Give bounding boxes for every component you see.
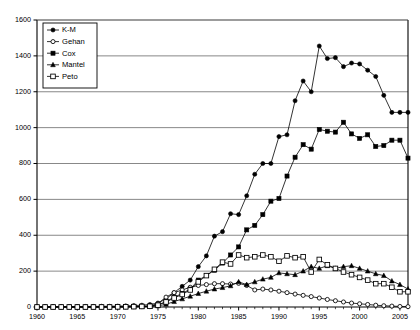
chart-container: 02004006008001000120014001600 1960196519…	[0, 0, 420, 330]
data-point	[67, 305, 72, 310]
legend-marker-icon	[51, 28, 55, 32]
data-point	[382, 144, 386, 148]
data-point	[131, 304, 136, 309]
data-point	[301, 293, 305, 297]
data-point	[341, 65, 345, 69]
data-point	[261, 253, 266, 258]
data-point	[164, 295, 168, 299]
data-point	[382, 304, 386, 308]
data-point	[229, 212, 233, 216]
data-point	[245, 194, 249, 198]
data-point	[180, 292, 185, 297]
x-tick-label: 1985	[231, 312, 247, 321]
y-tick-label: 600	[19, 194, 31, 203]
data-point	[374, 74, 378, 78]
legend-label: Cox	[62, 49, 76, 58]
data-point	[382, 93, 386, 97]
x-tick-label: 2005	[392, 312, 408, 321]
x-tick-label: 1980	[190, 312, 206, 321]
data-point	[91, 305, 96, 310]
data-point	[277, 259, 282, 264]
data-point	[398, 138, 402, 142]
data-point	[229, 253, 233, 257]
data-point	[245, 228, 249, 232]
data-point	[333, 299, 337, 303]
data-point	[43, 305, 48, 310]
data-point	[261, 287, 265, 291]
data-point	[349, 272, 354, 277]
data-point	[228, 262, 233, 267]
data-point	[261, 213, 265, 217]
y-tick-label: 400	[19, 230, 31, 239]
x-tick-label: 1965	[69, 312, 85, 321]
data-point	[374, 303, 378, 307]
data-point	[164, 300, 169, 305]
data-point	[285, 133, 289, 137]
data-point	[277, 135, 281, 139]
data-point	[75, 305, 80, 310]
data-point	[204, 254, 208, 258]
data-point	[325, 297, 329, 301]
data-point	[83, 305, 88, 310]
data-point	[220, 260, 225, 265]
x-tick-label: 1960	[29, 312, 45, 321]
data-point	[188, 288, 193, 293]
data-point	[196, 265, 200, 269]
data-point	[148, 304, 153, 309]
data-point	[358, 136, 362, 140]
y-tick-label: 1000	[15, 123, 31, 132]
data-point	[188, 278, 192, 282]
data-point	[358, 62, 362, 66]
x-tick-label: 2000	[352, 312, 368, 321]
y-tick-label: 1400	[15, 51, 31, 60]
data-point	[277, 289, 281, 293]
data-point	[358, 302, 362, 306]
data-point	[390, 285, 395, 290]
data-point	[309, 270, 314, 275]
data-point	[325, 263, 330, 268]
line-chart: 02004006008001000120014001600 1960196519…	[0, 0, 420, 330]
data-point	[373, 281, 378, 286]
data-point	[196, 280, 201, 285]
data-point	[293, 155, 297, 159]
data-point	[140, 304, 145, 309]
data-point	[269, 288, 273, 292]
data-point	[333, 56, 337, 60]
data-point	[349, 132, 353, 136]
y-tick-label: 800	[19, 158, 31, 167]
data-point	[269, 254, 274, 259]
data-point	[123, 305, 128, 310]
data-point	[309, 295, 313, 299]
data-point	[99, 305, 104, 310]
legend-label: Gehan	[62, 37, 85, 46]
data-point	[398, 289, 403, 294]
data-point	[301, 254, 306, 259]
data-point	[252, 254, 257, 259]
data-point	[301, 79, 305, 83]
data-point	[220, 230, 224, 234]
legend-marker-icon	[51, 51, 55, 55]
x-tick-label: 1990	[271, 312, 287, 321]
x-tick-label: 1970	[110, 312, 126, 321]
data-point	[236, 253, 241, 258]
y-tick-label: 0	[27, 302, 31, 311]
x-tick-label: 1995	[311, 312, 327, 321]
data-point	[212, 282, 216, 286]
data-point	[172, 291, 176, 295]
data-point	[293, 99, 297, 103]
legend-marker-icon	[51, 74, 56, 79]
data-point	[253, 288, 257, 292]
y-tick-label: 200	[19, 266, 31, 275]
data-point	[204, 283, 208, 287]
data-point	[253, 223, 257, 227]
data-point	[325, 129, 329, 133]
data-point	[253, 172, 257, 176]
data-point	[366, 302, 370, 306]
data-point	[59, 305, 64, 310]
data-point	[309, 147, 313, 151]
data-point	[156, 303, 161, 308]
data-point	[406, 305, 410, 309]
data-point	[237, 213, 241, 217]
data-point	[406, 156, 410, 160]
data-point	[285, 174, 289, 178]
